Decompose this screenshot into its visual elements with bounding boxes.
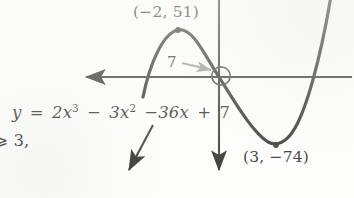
cubic-curve [143,0,331,144]
equation-term2: 3x [109,103,129,122]
equation-constant: 7 [220,103,231,122]
equation-term2-exponent: 2 [129,103,136,114]
cubic-graph-figure: (−2, 51) (3, −74) 7 y = 2x3 − 3x2 −36x +… [0,0,354,198]
local-minimum-label: (3, −74) [243,150,309,166]
local-maximum-label: (−2, 51) [133,5,199,21]
equation-term3: −36x [144,103,189,122]
equation-leader-arrow [129,125,153,170]
equation-equals: = [30,103,44,122]
graph-canvas [0,0,354,198]
y-intercept-label: 7 [167,55,177,70]
condition-label: ⩾ 3, [0,133,29,150]
local-maximum-dot [175,27,181,33]
equation-lhs: y [12,103,21,122]
equation-label: y = 2x3 − 3x2 −36x + 7 [12,105,230,122]
equation-minus-1: − [87,103,101,122]
equation-term1-exponent: 3 [72,103,79,114]
y-intercept-leader-arrow [182,63,211,70]
equation-plus: + [197,103,211,122]
equation-term1: 2x [52,103,72,122]
